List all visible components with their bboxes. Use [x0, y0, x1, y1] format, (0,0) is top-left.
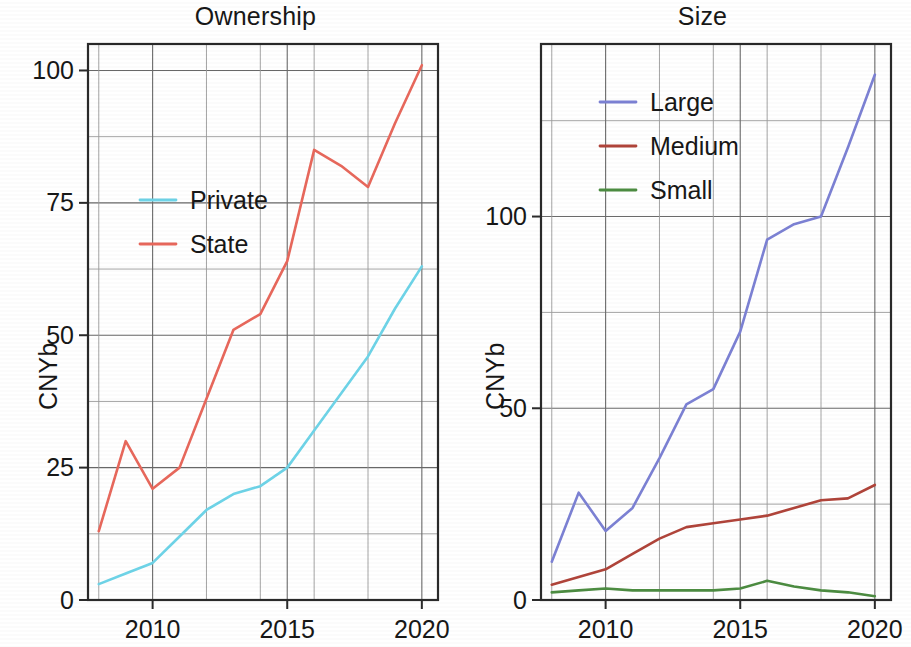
x-tick-label: 2010	[578, 615, 634, 643]
x-tick-label: 2010	[125, 615, 181, 643]
y-tick-label: 0	[513, 586, 527, 614]
plot-frame	[541, 44, 891, 600]
legend-label-large: Large	[650, 88, 714, 116]
y-tick-label: 25	[46, 453, 74, 481]
legend-label-medium: Medium	[650, 132, 739, 160]
legend-label-private: Private	[190, 186, 268, 214]
legend: PrivateState	[140, 186, 268, 258]
x-tick-label: 2020	[847, 615, 903, 643]
legend-label-small: Small	[650, 176, 713, 204]
chart-panel-ownership: Ownership CNYb 0255075100201020152020Pri…	[0, 0, 455, 647]
x-tick-label: 2020	[394, 615, 450, 643]
plot-area-ownership: 0255075100201020152020PrivateState	[0, 0, 455, 647]
legend: LargeMediumSmall	[600, 88, 739, 204]
x-tick-label: 2015	[712, 615, 768, 643]
chart-panel-size: Size CNYb 050100201020152020LargeMediumS…	[455, 0, 910, 647]
y-tick-label: 100	[485, 202, 527, 230]
y-tick-label: 50	[499, 394, 527, 422]
gridlines	[541, 44, 891, 600]
plot-area-size: 050100201020152020LargeMediumSmall	[455, 0, 911, 647]
plot-frame	[88, 44, 438, 600]
gridlines	[88, 44, 438, 600]
y-tick-label: 75	[46, 188, 74, 216]
y-tick-label: 50	[46, 321, 74, 349]
x-tick-label: 2015	[259, 615, 315, 643]
figure-root: Ownership CNYb 0255075100201020152020Pri…	[0, 0, 911, 647]
legend-label-state: State	[190, 230, 248, 258]
y-tick-label: 0	[60, 586, 74, 614]
y-tick-label: 100	[32, 56, 74, 84]
